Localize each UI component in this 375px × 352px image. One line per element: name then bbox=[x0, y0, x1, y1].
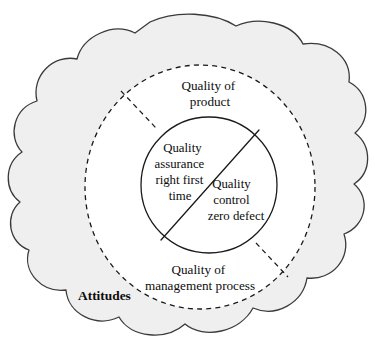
inner-lower-right-line1: Quality bbox=[212, 177, 251, 191]
inner-lower-right-line3: zero defect bbox=[208, 209, 265, 223]
bottom-ring-label-line1: Quality of bbox=[171, 262, 225, 277]
inner-upper-left-line2: assurance bbox=[155, 157, 205, 171]
attitudes-label: Attitudes bbox=[78, 288, 131, 303]
inner-lower-right-line2: control bbox=[213, 193, 250, 207]
inner-upper-left-line4: time bbox=[169, 189, 192, 203]
bottom-ring-label-line2: management process bbox=[145, 278, 255, 293]
top-ring-label-line2: product bbox=[190, 94, 231, 109]
inner-upper-left-line1: Quality bbox=[163, 141, 202, 155]
quality-concentric-diagram: Quality of product Quality of management… bbox=[0, 0, 375, 352]
diagram-canvas: Quality of product Quality of management… bbox=[0, 0, 375, 352]
top-ring-label-line1: Quality of bbox=[181, 78, 235, 93]
top-ring-label: Quality of product bbox=[181, 78, 238, 109]
inner-upper-left-line3: right first bbox=[155, 173, 203, 187]
